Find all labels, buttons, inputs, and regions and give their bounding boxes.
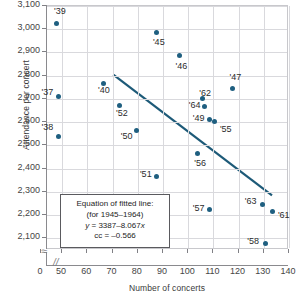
scatter-chart: Attendance per concert Number of concert… [0,0,296,295]
gridline-horizontal [47,169,287,170]
data-point-label: '63 [245,196,257,206]
x-tick-label: 140 [273,266,296,276]
gridline-horizontal [47,122,287,123]
equation-x-symbol: x [141,221,145,230]
gridline-vertical [213,6,214,248]
y-tick-label: 2,300 [0,185,40,195]
x-tick-mark [162,249,163,253]
equation-annotation-box: Equation of fitted line: (for 1945–1964)… [60,194,170,248]
y-tick-mark [42,191,46,192]
equation-line-3: y = 3387–8.067x [68,221,162,232]
data-point-label: '62 [199,88,211,98]
data-point-label: '47 [230,72,242,82]
data-point-label: '56 [194,158,206,168]
y-tick-label: 2,200 [0,208,40,218]
y-axis-break-icon: ≈ [41,246,47,257]
data-point [263,241,268,246]
gridline-horizontal [47,6,287,7]
equation-line-4: cc = –0.566 [68,231,162,242]
y-tick-mark [42,5,46,6]
y-tick-label: 3,000 [0,22,40,32]
y-tick-mark [42,144,46,145]
gridline-horizontal [47,99,287,100]
x-tick-mark [187,249,188,253]
data-point-label: '58 [247,236,259,246]
data-point-label: '52 [116,108,128,118]
y-tick-label: 2,800 [0,69,40,79]
y-tick-label: 2,400 [0,162,40,172]
data-point-label: '39 [54,6,66,16]
gridline-horizontal [47,192,287,193]
y-tick-mark [42,28,46,29]
equation-body: = 3387–8.067 [89,221,140,230]
x-tick-mark [86,249,87,253]
y-tick-label: 2,700 [0,92,40,102]
x-tick-mark [263,249,264,253]
gridline-horizontal [47,76,287,77]
equation-line-1: Equation of fitted line: [68,199,162,210]
data-point-label: '40 [98,85,110,95]
data-point-label: '49 [193,113,205,123]
data-point-label: '55 [220,124,232,134]
x-tick-mark [288,249,289,253]
data-point-label: '61 [278,210,290,220]
y-tick-label: 2,100 [0,231,40,241]
data-point [134,128,139,133]
y-axis-title: Attendance per concert [21,35,31,175]
x-tick-mark-zero [40,249,41,253]
x-tick-mark [61,249,62,253]
y-tick-label: 2,600 [0,115,40,125]
data-point-label: '51 [140,169,152,179]
gridline-vertical [264,6,265,248]
x-tick-mark [238,249,239,253]
y-tick-mark [42,75,46,76]
gridline-horizontal [47,29,287,30]
y-tick-mark [42,168,46,169]
gridline-horizontal [47,52,287,53]
data-point-label: '45 [153,37,165,47]
y-tick-label: 2,900 [0,45,40,55]
x-tick-mark [112,249,113,253]
y-tick-mark [42,214,46,215]
data-point [195,151,200,156]
data-point-label: '50 [121,131,133,141]
data-point [54,21,59,26]
data-point [202,104,207,109]
data-point-label: '57 [193,203,205,213]
y-tick-mark [42,51,46,52]
data-point-label: '46 [176,61,188,71]
gridline-horizontal [47,145,287,146]
equation-line-2: (for 1945–1964) [68,210,162,221]
y-tick-label: 3,100 [0,0,40,9]
gridline-vertical [239,6,240,248]
gridline-vertical [188,6,189,248]
data-point-label: '38 [42,122,54,132]
data-point [117,103,122,108]
data-point-label: '64 [189,100,201,110]
y-tick-mark [42,237,46,238]
x-axis-title: Number of concerts [46,283,288,293]
x-tick-mark [212,249,213,253]
data-point-label: '37 [42,87,54,97]
y-tick-label: 2,500 [0,138,40,148]
y-tick-mark [42,98,46,99]
x-tick-mark [137,249,138,253]
